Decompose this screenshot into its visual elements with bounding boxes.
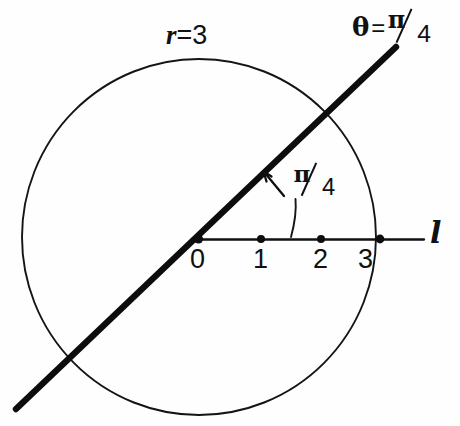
radius-label: r=3 [166, 22, 207, 49]
ray-theta-pi-over-4 [16, 47, 396, 409]
theta-symbol: θ [352, 12, 369, 42]
polar-figure: r=3 θ=π4 π4 l 0 1 2 3 [0, 0, 460, 426]
axis-point-1 [257, 235, 265, 243]
axis-name-label: l [430, 218, 441, 248]
tick-label-2: 2 [313, 246, 328, 273]
axis-point-0 [194, 234, 203, 243]
tick-label-0: 0 [190, 246, 205, 273]
tick-label-3: 3 [358, 246, 373, 273]
tick-label-1: 1 [253, 246, 268, 273]
figure-canvas [0, 0, 460, 426]
theta-fraction: π4 [387, 9, 432, 46]
angle-annotation-label: π4 [293, 163, 336, 199]
theta-equals: = [371, 14, 385, 41]
theta-label: θ=π4 [352, 9, 432, 46]
radius-variable: r [166, 20, 177, 50]
angle-arrow-icon [264, 172, 285, 197]
angle-fraction: π4 [293, 163, 336, 199]
axis-point-2 [317, 235, 325, 243]
angle-arc [291, 199, 296, 237]
radius-equals: = [177, 20, 193, 50]
angle-denominator: 4 [322, 173, 335, 200]
radius-value: 3 [192, 20, 207, 50]
theta-denominator: 4 [417, 20, 431, 47]
axis-point-3 [376, 235, 385, 244]
